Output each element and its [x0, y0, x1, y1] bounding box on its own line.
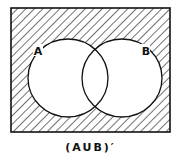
venn-diagram: A B (AUB)′	[0, 0, 181, 166]
set-b-label: B	[142, 45, 150, 58]
diagram-caption: (AUB)′	[0, 141, 181, 154]
set-a-label: A	[34, 45, 43, 58]
universal-set-hatch	[11, 8, 170, 132]
